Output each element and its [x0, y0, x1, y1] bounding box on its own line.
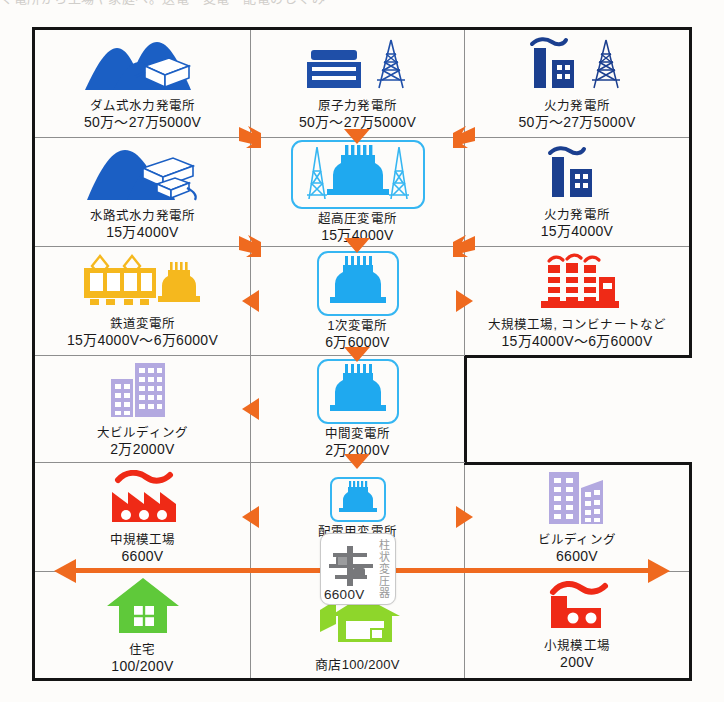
- cell-house[interactable]: 住宅 100/200V: [35, 572, 250, 678]
- building-icon: [541, 470, 613, 530]
- arrow-right-distribution-to-building: [456, 506, 473, 528]
- cell-primary-substation[interactable]: 1次変電所 6万6000V: [251, 247, 464, 355]
- arrow-down-intermediate-to-distribution: [344, 454, 370, 469]
- medium-factory-icon: [102, 470, 184, 530]
- caption-shop: 商店100/200V: [315, 656, 400, 673]
- thermal-plant-icon: [518, 36, 636, 96]
- cell-building[interactable]: ビルディング 6600V: [465, 463, 689, 571]
- arrow-left-distribution-to-medium-factory: [242, 506, 259, 528]
- cell-intermediate-substation[interactable]: 中間変電所 2万2000V: [251, 356, 464, 462]
- cell-thermal-2[interactable]: 火力発電所 15万4000V: [465, 138, 689, 246]
- arrow-down-nuclear-to-ehv: [344, 129, 370, 144]
- substation-transformer-small-icon: [330, 477, 386, 522]
- cell-railway-substation[interactable]: 鉄道変電所 15万4000V～6万6000V: [35, 247, 250, 355]
- scanned-page-text-sliver: ぐ電所から工場や家庭へ。送電・変電・配電のしくみ: [0, 0, 724, 16]
- caption-dam-hydro: ダム式水力発電所 50万～27万5000V: [84, 99, 201, 131]
- arrow-diagonal-hydro-to-ehv: [236, 123, 264, 151]
- frame-right-lower: [689, 462, 692, 681]
- cell-large-building[interactable]: 大ビルディング 2万2000V: [35, 356, 250, 462]
- caption-thermal-2: 火力発電所 15万4000V: [541, 208, 613, 240]
- cell-run-of-river-hydro[interactable]: 水路式水力発電所 15万4000V: [35, 138, 250, 246]
- arrow-right-pole-to-small-factory: [648, 559, 670, 583]
- dam-hydro-plant-icon: [83, 36, 203, 96]
- pole-transformer-icon: [327, 544, 375, 592]
- arrow-diagonal-thermal-to-ehv: [450, 123, 478, 151]
- frame-bottom: [32, 678, 692, 681]
- pole-transformer-label: 柱状変圧器: [378, 539, 390, 599]
- house-icon: [105, 576, 181, 640]
- frame-right-upper: [689, 27, 692, 358]
- small-factory-icon: [539, 580, 615, 636]
- power-grid-flow-diagram: ダム式水力発電所 50万～27万5000V 原子力発電所 50万～27万5000…: [32, 27, 692, 681]
- large-building-icon: [103, 361, 183, 423]
- arrow-down-primary-to-intermediate: [344, 347, 370, 362]
- caption-large-factory: 大規模工場, コンビナートなど 15万4000V～6万6000V: [488, 318, 667, 350]
- arrow-right-primary-to-large-factory: [456, 290, 473, 312]
- cell-ehv-substation[interactable]: 超高圧変電所 15万4000V: [251, 138, 464, 246]
- cell-thermal-1[interactable]: 火力発電所 50万～27万5000V: [465, 30, 689, 137]
- frame-notch-top: [464, 355, 692, 358]
- caption-house: 住宅 100/200V: [111, 643, 173, 675]
- caption-building: ビルディング 6600V: [538, 533, 616, 565]
- substation-transformer-icon: [291, 140, 425, 209]
- cell-nuclear[interactable]: 原子力発電所 50万～27万5000V: [251, 30, 464, 137]
- caption-nuclear: 原子力発電所 50万～27万5000V: [299, 99, 416, 131]
- pole-transformer-voltage: 6600V: [324, 587, 365, 602]
- caption-small-factory: 小規模工場 200V: [544, 639, 610, 671]
- pole-transformer-box[interactable]: 柱状変圧器 6600V: [320, 533, 396, 605]
- cell-medium-factory[interactable]: 中規模工場 6600V: [35, 463, 250, 571]
- large-factory-icon: [529, 253, 625, 315]
- arrow-diagonal-thermal2-to-primary: [450, 232, 478, 260]
- thermal-plant-small-icon: [540, 145, 614, 205]
- caption-run-of-river-hydro: 水路式水力発電所 15万4000V: [90, 209, 196, 241]
- substation-transformer-icon: [317, 251, 399, 316]
- cell-dam-hydro[interactable]: ダム式水力発電所 50万～27万5000V: [35, 30, 250, 137]
- caption-medium-factory: 中規模工場 6600V: [110, 533, 176, 565]
- arrow-line-pole-to-small-factory: [388, 568, 650, 573]
- cell-large-factory[interactable]: 大規模工場, コンビナートなど 15万4000V～6万6000V: [465, 247, 689, 355]
- nuclear-plant-icon: [299, 36, 417, 96]
- caption-railway-substation: 鉄道変電所 15万4000V～6万6000V: [67, 317, 218, 349]
- caption-thermal-1: 火力発電所 50万～27万5000V: [518, 99, 635, 131]
- arrow-down-ehv-to-primary: [344, 238, 370, 253]
- arrow-left-intermediate-to-large-building: [242, 398, 259, 420]
- cell-small-factory[interactable]: 小規模工場 200V: [465, 572, 689, 678]
- frame-notch-left: [464, 355, 467, 465]
- substation-transformer-icon: [317, 359, 399, 424]
- railway-train-icon: [78, 254, 208, 314]
- run-of-river-hydro-icon: [83, 144, 203, 206]
- arrow-line-pole-to-house: [74, 568, 336, 573]
- caption-large-building: 大ビルディング 2万2000V: [97, 426, 188, 458]
- arrow-left-pole-to-house: [54, 559, 76, 583]
- arrow-left-primary-to-railway: [242, 290, 259, 312]
- arrow-diagonal-hydro2-to-primary: [236, 232, 264, 260]
